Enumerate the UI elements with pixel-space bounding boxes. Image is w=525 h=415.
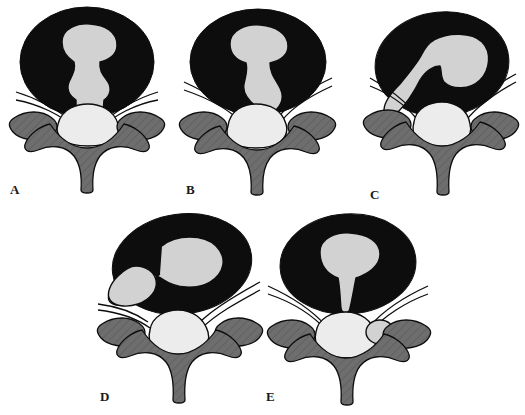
thecal-sac [227,104,287,148]
panel-C [348,4,525,204]
panel-label-C: C [370,188,380,201]
panel-B-illustration [170,0,345,200]
figure-canvas: A B [0,0,525,415]
panel-E-illustration [258,208,438,408]
panel-A [0,0,175,200]
panel-B [170,0,345,200]
panel-D-illustration [88,208,268,408]
panel-D [88,208,268,408]
panel-E [258,208,438,408]
panel-label-B: B [186,183,195,196]
panel-label-D: D [100,390,110,403]
panel-C-illustration [348,4,525,204]
panel-label-E: E [266,390,275,403]
panel-label-A: A [10,183,20,196]
panel-A-illustration [0,0,175,200]
